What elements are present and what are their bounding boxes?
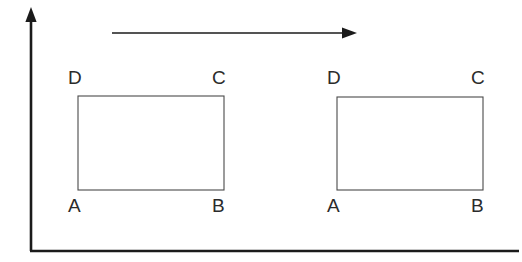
rectangle-right-vertex-label-c: C [471,68,485,87]
rectangle-left-vertex-label-b: B [212,196,225,215]
rectangle-left-vertex-label-a: A [68,196,81,215]
y-axis-arrowhead-icon [25,7,36,22]
rectangle-left-vertex-label-d: D [68,68,82,87]
translation-arrow [112,28,357,39]
rectangle-right-vertex-label-d: D [327,68,341,87]
rectangle-left-outline [78,96,224,190]
rectangle-right [337,97,483,190]
translation-arrowhead-icon [342,28,357,39]
rectangle-right-outline [337,97,483,190]
figure-drawing [0,0,522,262]
rectangle-right-vertex-label-b: B [471,196,484,215]
y-axis [25,7,36,251]
figure-canvas: D C A B D C A B [0,0,522,262]
rectangle-left-vertex-label-c: C [212,68,226,87]
rectangle-right-vertex-label-a: A [327,196,340,215]
rectangle-left [78,96,224,190]
